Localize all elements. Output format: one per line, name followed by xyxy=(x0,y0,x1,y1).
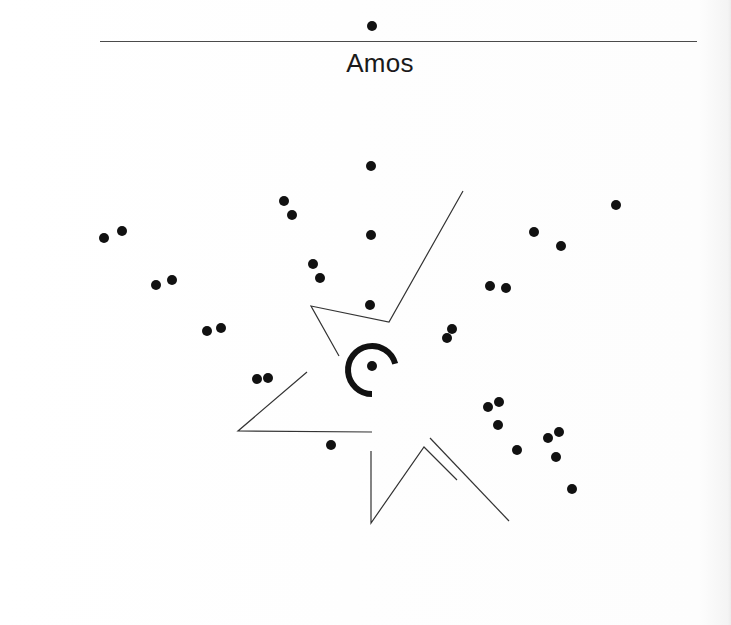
dot xyxy=(493,420,503,430)
dot xyxy=(512,445,522,455)
dot xyxy=(279,196,289,206)
dot xyxy=(543,433,553,443)
diagram-lines xyxy=(238,191,509,523)
dot xyxy=(483,402,493,412)
dot xyxy=(167,275,177,285)
document-page: Amos xyxy=(0,0,731,625)
dot xyxy=(567,484,577,494)
center-dot xyxy=(367,361,377,371)
diagram-dots xyxy=(99,161,621,494)
dot xyxy=(365,300,375,310)
dot xyxy=(99,233,109,243)
dot xyxy=(366,230,376,240)
dot xyxy=(326,440,336,450)
lower-right-stroke-line xyxy=(430,438,509,521)
dot xyxy=(151,280,161,290)
dot xyxy=(216,323,226,333)
dot xyxy=(366,161,376,171)
dot xyxy=(554,427,564,437)
dot xyxy=(252,374,262,384)
dot xyxy=(611,200,621,210)
dot xyxy=(447,324,457,334)
dot xyxy=(287,210,297,220)
top-dot xyxy=(367,21,377,31)
dot xyxy=(263,373,273,383)
dot xyxy=(315,273,325,283)
dot xyxy=(202,326,212,336)
dot xyxy=(485,281,495,291)
dot xyxy=(551,452,561,462)
upper-wedge-line xyxy=(311,191,463,356)
dot xyxy=(308,259,318,269)
dot xyxy=(494,397,504,407)
lower-zigzag-line xyxy=(371,447,457,523)
dot xyxy=(556,241,566,251)
dot xyxy=(501,283,511,293)
dot xyxy=(529,227,539,237)
constellation-diagram xyxy=(0,0,731,625)
dot xyxy=(117,226,127,236)
dot xyxy=(442,333,452,343)
